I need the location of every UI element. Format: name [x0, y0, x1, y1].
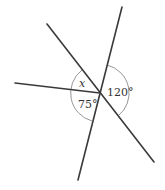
angle-120-label: 120° — [107, 86, 134, 99]
angle-x-label: x — [79, 77, 86, 90]
angle-75-label: 75° — [78, 98, 98, 111]
ray-west — [15, 83, 100, 93]
angle-diagram: x 75° 120° — [0, 0, 165, 190]
